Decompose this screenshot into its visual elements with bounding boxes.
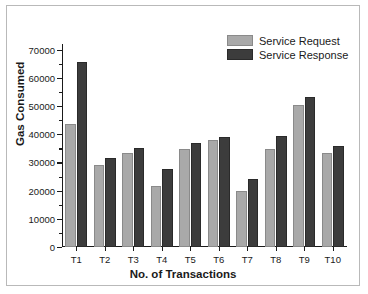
y-tick-minor	[59, 64, 62, 65]
bar-t3-response	[134, 148, 145, 247]
bar-t1-response	[77, 62, 88, 247]
y-tick-label: 30000	[29, 157, 55, 168]
x-tick-label-t6: T6	[213, 254, 224, 265]
y-tick-label: 50000	[29, 101, 55, 112]
bar-t6-request	[208, 140, 219, 247]
x-tick-label-t10: T10	[325, 254, 341, 265]
x-tick-label-t2: T2	[99, 254, 110, 265]
x-tick-label-t1: T1	[71, 254, 82, 265]
y-tick-minor	[59, 120, 62, 121]
bar-t2-request	[94, 165, 105, 247]
x-tick	[304, 247, 305, 251]
bar-t10-response	[333, 146, 344, 248]
plot-area: 010000200003000040000500006000070000 T1T…	[62, 44, 347, 247]
y-tick-label: 10000	[29, 213, 55, 224]
bar-t10-request	[322, 153, 333, 247]
bar-t8-response	[276, 136, 287, 247]
y-tick-major	[57, 247, 62, 248]
bar-t7-response	[248, 179, 259, 248]
x-tick	[276, 247, 277, 251]
x-tick	[162, 247, 163, 251]
x-tick-label-t5: T5	[185, 254, 196, 265]
y-tick-minor	[59, 177, 62, 178]
y-tick-label: 60000	[29, 72, 55, 83]
bar-t5-request	[179, 149, 190, 247]
y-tick-major	[57, 162, 62, 163]
bar-t8-request	[265, 149, 276, 247]
x-tick	[76, 247, 77, 251]
y-tick-major	[57, 50, 62, 51]
x-axis-title: No. of Transactions	[7, 268, 359, 280]
y-tick-major	[57, 191, 62, 192]
bar-t4-response	[162, 169, 173, 247]
bar-t5-response	[191, 143, 202, 247]
chart-frame: Gas Consumed No. of Transactions Service…	[6, 5, 360, 286]
y-tick-minor	[59, 148, 62, 149]
bar-t9-request	[293, 105, 304, 247]
bar-t1-request	[65, 124, 76, 247]
bar-t7-request	[236, 191, 247, 247]
y-tick-label: 40000	[29, 129, 55, 140]
bar-t2-response	[105, 158, 116, 247]
x-tick-label-t7: T7	[242, 254, 253, 265]
y-tick-major	[57, 134, 62, 135]
y-tick-minor	[59, 205, 62, 206]
bar-t9-response	[305, 97, 316, 247]
x-tick-label-t9: T9	[299, 254, 310, 265]
y-tick-minor	[59, 233, 62, 234]
y-tick-label: 70000	[29, 44, 55, 55]
bar-t3-request	[122, 153, 133, 247]
y-tick-label: 0	[50, 242, 55, 253]
bar-t4-request	[151, 186, 162, 247]
y-axis-line	[62, 44, 63, 247]
y-tick-label: 20000	[29, 185, 55, 196]
x-tick-label-t3: T3	[128, 254, 139, 265]
x-tick	[247, 247, 248, 251]
y-tick-major	[57, 219, 62, 220]
y-axis-title: Gas Consumed	[14, 62, 26, 146]
x-tick-label-t4: T4	[156, 254, 167, 265]
x-tick	[219, 247, 220, 251]
x-tick	[133, 247, 134, 251]
y-tick-minor	[59, 92, 62, 93]
x-tick	[105, 247, 106, 251]
bar-t6-response	[219, 137, 230, 247]
x-tick-label-t8: T8	[270, 254, 281, 265]
x-tick	[190, 247, 191, 251]
y-tick-major	[57, 106, 62, 107]
y-tick-major	[57, 78, 62, 79]
x-tick	[333, 247, 334, 251]
